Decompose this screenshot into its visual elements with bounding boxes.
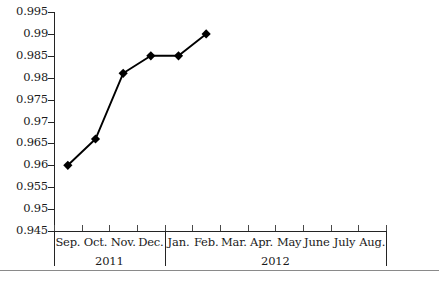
y-axis-label: 0.98: [0, 72, 48, 84]
x-axis-label: Sep.: [54, 236, 82, 249]
year-separator: [386, 231, 387, 266]
y-axis-tick: [48, 56, 54, 57]
x-axis-label: Feb.: [192, 236, 220, 249]
y-axis-label: 0.985: [0, 50, 48, 62]
x-axis-tick: [137, 225, 138, 231]
x-axis-line: [54, 231, 386, 232]
x-axis-label: Dec.: [137, 236, 165, 249]
x-axis-tick: [82, 225, 83, 231]
x-axis-tick: [109, 225, 110, 231]
line-chart: 0.9950.990.9850.980.9750.970.9650.960.95…: [0, 0, 439, 281]
y-axis-tick: [48, 100, 54, 101]
x-axis-label: Jan.: [165, 236, 193, 249]
data-point-marker: [146, 51, 155, 60]
y-axis-label: 0.99: [0, 28, 48, 40]
x-axis-tick: [358, 225, 359, 231]
y-axis-label: 0.965: [0, 137, 48, 149]
x-axis-label: Mar.: [220, 236, 248, 249]
series-line: [68, 34, 206, 165]
y-axis-label: 0.945: [0, 225, 48, 237]
y-axis-label: 0.955: [0, 181, 48, 193]
y-axis-label-text: 0.99: [2, 28, 48, 40]
data-point-marker: [174, 51, 183, 60]
y-axis-label-text: 0.975: [2, 94, 48, 106]
y-axis-label: 0.95: [0, 203, 48, 215]
x-axis-tick: [303, 225, 304, 231]
y-axis-label: 0.96: [0, 159, 48, 171]
y-axis-label-text: 0.98: [2, 72, 48, 84]
y-axis-tick: [48, 34, 54, 35]
x-axis-tick: [192, 225, 193, 231]
y-axis-tick: [48, 165, 54, 166]
x-axis-label: Apr.: [248, 236, 276, 249]
x-axis-label: Oct.: [82, 236, 110, 249]
y-axis-label-text: 0.945: [2, 225, 48, 237]
y-axis-label-text: 0.97: [2, 116, 48, 128]
data-point-marker: [63, 161, 72, 170]
data-point-marker: [119, 69, 128, 78]
y-axis-tick: [48, 209, 54, 210]
x-axis-label: Nov.: [109, 236, 137, 249]
bottom-divider: [0, 270, 439, 271]
y-axis-line: [54, 12, 55, 231]
x-axis-tick: [275, 225, 276, 231]
y-axis-label-text: 0.985: [2, 50, 48, 62]
y-axis-tick: [48, 187, 54, 188]
x-axis-tick: [331, 225, 332, 231]
x-axis-tick: [248, 225, 249, 231]
y-axis-label: 0.995: [0, 6, 48, 18]
y-axis-tick: [48, 12, 54, 13]
y-axis-label-text: 0.995: [2, 6, 48, 18]
y-axis-label-text: 0.965: [2, 137, 48, 149]
year-label: 2011: [54, 255, 165, 268]
y-axis-tick: [48, 143, 54, 144]
x-axis-label: July: [331, 236, 359, 249]
y-axis-label-text: 0.95: [2, 203, 48, 215]
data-point-marker: [91, 134, 100, 143]
data-point-marker: [202, 29, 211, 38]
y-axis-label: 0.975: [0, 94, 48, 106]
x-axis-label: May: [275, 236, 303, 249]
y-axis-tick: [48, 122, 54, 123]
x-axis-label: June: [303, 236, 331, 249]
y-axis-label: 0.97: [0, 116, 48, 128]
y-axis-label-text: 0.955: [2, 181, 48, 193]
x-axis-label: Aug.: [358, 236, 386, 249]
year-label: 2012: [165, 255, 386, 268]
y-axis-tick: [48, 78, 54, 79]
y-axis-label-text: 0.96: [2, 159, 48, 171]
x-axis-tick: [220, 225, 221, 231]
